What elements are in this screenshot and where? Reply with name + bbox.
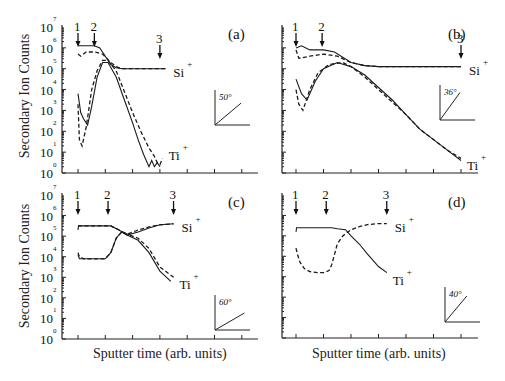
y-axis-label-top: Secondary Ion Counts xyxy=(17,16,33,176)
svg-text:+: + xyxy=(481,152,486,162)
y-tick-label: 10 xyxy=(40,145,53,160)
marker-label-2: 2 xyxy=(104,187,111,202)
y-axis-label-bottom: Secondary Ion Counts xyxy=(17,186,33,346)
series-label-ti: Ti xyxy=(169,148,180,163)
panel-d: 123(d)Si+Ti+40° xyxy=(282,187,480,338)
y-tick-label: 10 xyxy=(40,62,53,77)
marker-label-3: 3 xyxy=(156,31,163,46)
y-tick-exponent: 7 xyxy=(53,183,57,191)
y-tick-label: 10 xyxy=(40,229,53,244)
y-tick-exponent: 4 xyxy=(53,78,57,86)
angle-label: 60° xyxy=(219,297,232,307)
series-label-ti: Ti xyxy=(180,277,191,292)
svg-text:+: + xyxy=(196,214,201,224)
y-tick-exponent: 2 xyxy=(53,286,57,294)
x-axis-label-c: Sputter time (arb. units) xyxy=(93,346,227,362)
figure-canvas: 100101102103104105106107123(a)Si+Ti+50°1… xyxy=(0,0,505,381)
series-ti-dashed- xyxy=(296,63,461,159)
y-tick-exponent: 1 xyxy=(53,140,57,148)
marker-label-3: 3 xyxy=(170,187,177,202)
marker-label-2: 2 xyxy=(322,187,329,202)
y-tick-exponent: 6 xyxy=(53,36,57,44)
series-label-ti: Ti xyxy=(393,273,404,288)
y-tick-label: 10 xyxy=(40,83,53,98)
y-tick-label: 10 xyxy=(40,188,53,203)
series-si-solid- xyxy=(78,46,165,69)
y-tick-exponent: 1 xyxy=(53,306,57,314)
series-label-si: Si xyxy=(182,220,193,235)
y-tick-label: 10 xyxy=(40,209,53,224)
angle-label: 36° xyxy=(443,87,457,97)
svg-text:+: + xyxy=(183,142,188,152)
svg-text:+: + xyxy=(409,214,414,224)
svg-text:+: + xyxy=(187,59,192,69)
marker-label-1: 1 xyxy=(292,187,299,202)
series-ti-solid- xyxy=(78,232,171,281)
y-tick-exponent: 0 xyxy=(53,327,57,335)
y-tick-exponent: 5 xyxy=(53,57,57,65)
y-tick-exponent: 5 xyxy=(53,224,57,232)
panel-label: (a) xyxy=(228,26,245,43)
panel-a: 100101102103104105106107123(a)Si+Ti+50° xyxy=(40,15,258,181)
y-tick-label: 10 xyxy=(40,166,53,181)
marker-label-2: 2 xyxy=(90,19,97,34)
marker-label-2: 2 xyxy=(318,19,325,34)
panel-label: (b) xyxy=(448,26,466,43)
series-si-dashed- xyxy=(78,52,165,69)
y-tick-label: 10 xyxy=(40,103,53,118)
angle-label: 40° xyxy=(449,289,462,299)
y-tick-exponent: 6 xyxy=(53,204,57,212)
panel-label: (d) xyxy=(448,194,466,211)
incidence-angle-icon: 60° xyxy=(215,295,250,330)
y-tick-exponent: 4 xyxy=(53,245,57,253)
marker-label-3: 3 xyxy=(383,187,390,202)
svg-text:+: + xyxy=(483,57,488,67)
series-label-si: Si xyxy=(173,65,184,80)
series-si-solid- xyxy=(296,46,461,67)
y-tick-label: 10 xyxy=(40,311,53,326)
series-ti-solid- xyxy=(296,63,461,161)
svg-text:+: + xyxy=(407,267,412,277)
incidence-angle-icon: 40° xyxy=(445,287,480,322)
y-tick-label: 10 xyxy=(40,20,53,35)
marker-label-1: 1 xyxy=(292,19,299,34)
series-ti- xyxy=(296,224,387,273)
series-label-si: Si xyxy=(469,63,480,78)
y-tick-exponent: 3 xyxy=(53,98,57,106)
marker-label-1: 1 xyxy=(74,19,81,34)
y-tick-label: 10 xyxy=(40,41,53,56)
series-label-si: Si xyxy=(395,220,406,235)
y-tick-exponent: 3 xyxy=(53,265,57,273)
series-label-ti: Ti xyxy=(467,158,478,173)
panel-label: (c) xyxy=(228,194,245,211)
x-axis-label-d: Sputter time (arb. units) xyxy=(312,346,446,362)
y-tick-exponent: 0 xyxy=(53,161,57,169)
y-tick-label: 10 xyxy=(40,332,53,347)
series-si-dashed- xyxy=(296,50,461,67)
y-tick-label: 10 xyxy=(40,291,53,306)
svg-text:+: + xyxy=(194,271,199,281)
y-tick-exponent: 2 xyxy=(53,119,57,127)
panel-c: 100101102103104105106107123(c)Si+Ti+60° xyxy=(40,183,258,347)
incidence-angle-icon: 36° xyxy=(440,85,475,120)
angle-label: 50° xyxy=(219,92,232,102)
y-tick-label: 10 xyxy=(40,270,53,285)
panel-b: 123(b)Si+Ti+36° xyxy=(282,19,488,173)
y-tick-label: 10 xyxy=(40,124,53,139)
incidence-angle-icon: 50° xyxy=(215,90,250,125)
series-si- xyxy=(296,228,387,273)
y-tick-label: 10 xyxy=(40,250,53,265)
marker-label-1: 1 xyxy=(74,187,81,202)
y-tick-exponent: 7 xyxy=(53,15,57,23)
